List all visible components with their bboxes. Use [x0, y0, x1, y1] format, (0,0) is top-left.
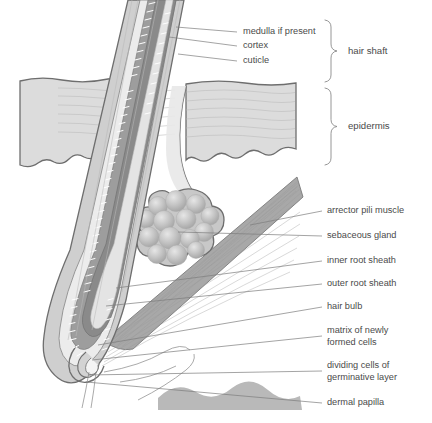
- label-matrix-line2: formed cells: [327, 337, 377, 347]
- label-cortex: cortex: [243, 40, 268, 50]
- hair-follicle-figure: medulla if presentcortexcuticlearrector …: [0, 0, 432, 423]
- label-sebaceous-gland: sebaceous gland: [327, 230, 396, 240]
- label-matrix: matrix of newly: [327, 325, 389, 335]
- papilla-stalk-right: [91, 372, 96, 408]
- label-arrector-pili: arrector pili muscle: [327, 205, 404, 215]
- label-dermal-papilla: dermal papilla: [327, 397, 385, 407]
- hair-follicle-diagram: medulla if presentcortexcuticlearrector …: [0, 0, 432, 423]
- dermal-papilla-shape: [158, 381, 302, 410]
- brace-hair-shaft: [325, 20, 337, 82]
- label-dividing-cells: dividing cells of: [327, 360, 390, 370]
- group-label-epidermis: epidermis: [348, 120, 390, 131]
- label-dividing-line2: germinative layer: [327, 372, 397, 382]
- label-inner-root-sheath: inner root sheath: [327, 255, 396, 265]
- leader-line-medulla: [176, 27, 237, 32]
- label-hair-bulb: hair bulb: [327, 301, 362, 311]
- label-outer-root-sheath: outer root sheath: [327, 278, 396, 288]
- leader-line-cuticle: [178, 54, 237, 61]
- leader-line-dividing-cells: [88, 371, 322, 375]
- group-label-texts: hair shaftepidermis: [348, 45, 390, 131]
- brace-epidermis: [325, 88, 337, 165]
- epidermis-right-block: [186, 81, 298, 161]
- leader-line-cortex: [169, 37, 237, 46]
- group-braces: [325, 20, 337, 165]
- dermal-papilla-band: [158, 381, 302, 410]
- label-cuticle: cuticle: [243, 55, 269, 65]
- group-label-hair-shaft: hair shaft: [348, 45, 388, 56]
- label-medulla: medulla if present: [243, 26, 316, 36]
